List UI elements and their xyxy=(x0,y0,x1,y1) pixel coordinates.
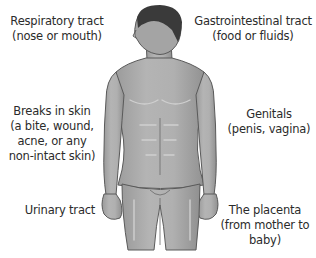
label-detail: acne, or any xyxy=(2,134,102,149)
label-breaks-in-skin: Breaks in skin (a bite, wound, acne, or … xyxy=(2,104,102,164)
label-detail: baby) xyxy=(216,233,314,248)
label-gastrointestinal-tract: Gastrointestinal tract (food or fluids) xyxy=(190,14,316,44)
label-detail: (from mother to xyxy=(216,218,314,233)
label-genitals: Genitals (penis, vagina) xyxy=(224,107,314,137)
label-placenta: The placenta (from mother to baby) xyxy=(216,203,314,248)
label-detail: (food or fluids) xyxy=(190,29,316,44)
label-detail: (penis, vagina) xyxy=(224,122,314,137)
label-title: Urinary tract xyxy=(10,203,110,218)
head xyxy=(133,5,182,55)
label-respiratory-tract: Respiratory tract (nose or mouth) xyxy=(2,14,112,44)
label-title: Breaks in skin xyxy=(2,104,102,119)
label-urinary-tract: Urinary tract xyxy=(10,203,110,218)
label-title: Respiratory tract xyxy=(2,14,112,29)
label-detail: (nose or mouth) xyxy=(2,29,112,44)
label-title: The placenta xyxy=(216,203,314,218)
label-detail: (a bite, wound, xyxy=(2,119,102,134)
label-detail: non-intact skin) xyxy=(2,149,102,164)
label-title: Gastrointestinal tract xyxy=(190,14,316,29)
label-title: Genitals xyxy=(224,107,314,122)
